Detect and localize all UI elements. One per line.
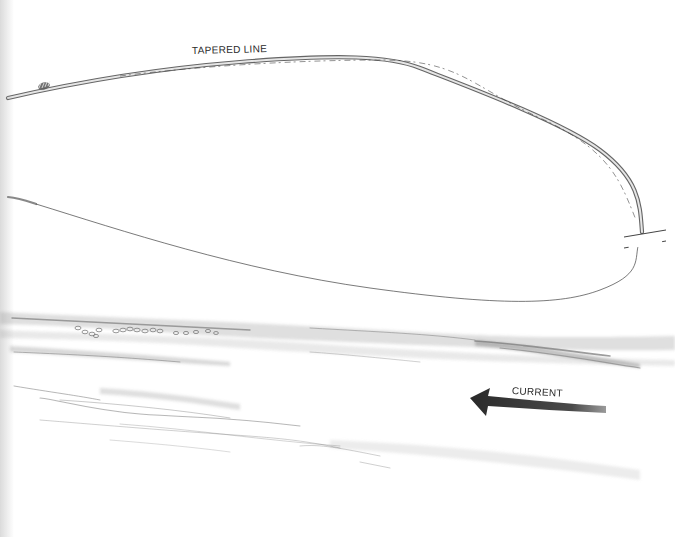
left-edge-shadow [0, 0, 14, 537]
break-marks [624, 230, 666, 249]
tapered-line [8, 57, 642, 232]
leader-line [8, 197, 638, 301]
tapered-line-label: TAPERED LINE [192, 43, 267, 56]
water-surface [0, 312, 675, 480]
fly-line-illustration: TAPERED LINE CURRENT [0, 0, 675, 537]
illustration-svg [0, 0, 675, 537]
